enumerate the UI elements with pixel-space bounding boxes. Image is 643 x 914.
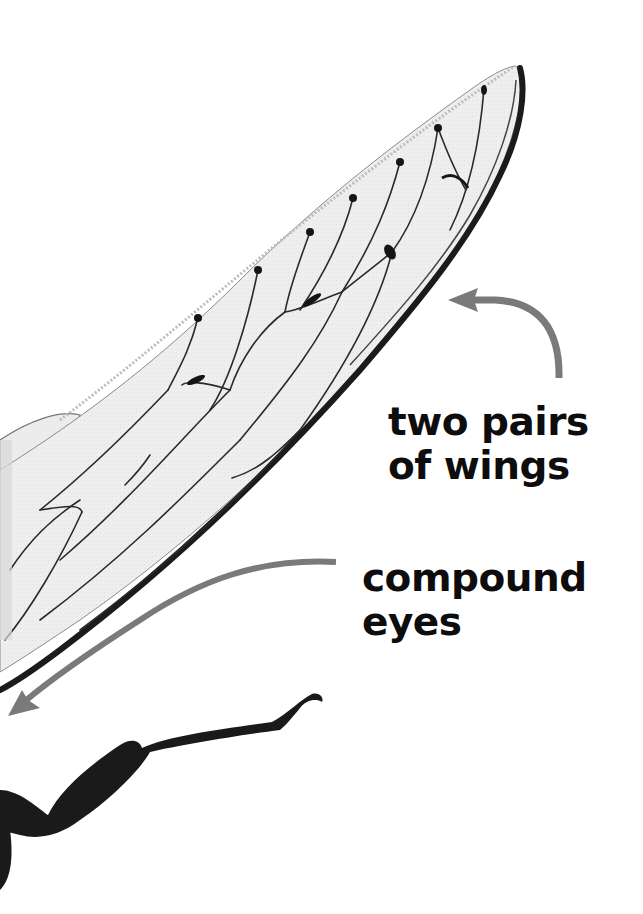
wings-arrow-icon: [448, 288, 559, 378]
cicada-leg: [0, 694, 323, 890]
label-line: eyes: [362, 600, 587, 644]
label-line: of wings: [388, 444, 589, 488]
label-two-pairs-of-wings: two pairs of wings: [388, 400, 589, 488]
cicada-illustration: two pairs of wings compound eyes: [0, 0, 643, 914]
label-line: compound: [362, 556, 587, 600]
label-line: two pairs: [388, 400, 589, 444]
label-compound-eyes: compound eyes: [362, 556, 587, 644]
